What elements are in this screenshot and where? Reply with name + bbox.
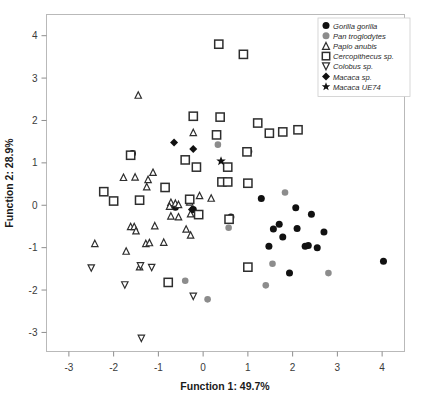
data-point [294, 126, 302, 134]
data-point [224, 178, 232, 186]
legend-item-cercopithecus-sp[interactable]: Cercopithecus sp. [322, 52, 393, 61]
x-tick-label: -1 [154, 362, 163, 373]
data-point [239, 50, 247, 58]
data-point [215, 141, 222, 148]
data-point [269, 260, 276, 267]
data-point [110, 197, 118, 205]
data-point [243, 148, 251, 156]
legend-label: Gorilla gorilla [333, 22, 377, 31]
x-tick-label: -2 [109, 362, 118, 373]
x-tick-label: 0 [200, 362, 206, 373]
data-point [182, 277, 189, 284]
y-tick-label: 0 [32, 200, 38, 211]
legend-label: Macaca UE74 [333, 83, 381, 92]
legend-label: Pan troglodytes [333, 32, 386, 41]
data-point [244, 179, 252, 187]
x-tick-label: 3 [335, 362, 341, 373]
data-point [181, 156, 189, 164]
data-point [282, 189, 289, 196]
data-point [186, 195, 194, 203]
data-point [262, 282, 269, 289]
data-point [216, 113, 224, 121]
data-point [314, 244, 321, 251]
y-tick-label: 4 [32, 30, 38, 41]
data-point [225, 215, 233, 223]
data-point [380, 258, 387, 265]
chart-canvas: -3-2-101234 -3-2-101234 Function 1: 49.7… [0, 0, 423, 404]
legend-marker-square-open [322, 52, 329, 59]
data-point [215, 40, 223, 48]
data-point [204, 296, 211, 303]
scatter-plot-figure: -3-2-101234 -3-2-101234 Function 1: 49.7… [0, 0, 423, 404]
data-point [279, 234, 286, 241]
data-point [258, 195, 265, 202]
data-point [270, 225, 277, 232]
data-point [294, 225, 301, 232]
x-axis-title: Function 1: 49.7% [180, 380, 270, 392]
data-point [320, 228, 327, 235]
legend-label: Cercopithecus sp. [333, 52, 394, 61]
x-tick-label: 4 [379, 362, 385, 373]
data-point [308, 211, 315, 218]
y-tick-label: -3 [29, 327, 38, 338]
data-point [212, 131, 220, 139]
data-point [265, 243, 272, 250]
x-tick-label: 2 [290, 362, 296, 373]
data-point [279, 128, 287, 136]
y-tick-label: -1 [29, 242, 38, 253]
data-point [276, 221, 283, 228]
legend-label: Papio anubis [333, 42, 377, 51]
data-point [161, 183, 169, 191]
y-axis-title: Function 2: 28.9% [3, 138, 15, 228]
legend-item-pan-troglodytes[interactable]: Pan troglodytes [323, 32, 386, 41]
legend-label: Colobus sp. [333, 62, 373, 71]
data-point [225, 224, 232, 231]
y-tick-label: 2 [32, 115, 38, 126]
data-point [127, 151, 135, 159]
data-point [100, 188, 108, 196]
x-tick-label: 1 [245, 362, 251, 373]
data-point [254, 119, 262, 127]
data-point [224, 163, 232, 171]
data-point [195, 210, 203, 218]
data-point [265, 129, 273, 137]
data-point [192, 163, 200, 171]
x-tick-label: -3 [64, 362, 73, 373]
data-point [164, 278, 172, 286]
data-point [305, 242, 312, 249]
legend: Gorilla gorillaPan troglodytesPapio anub… [318, 18, 410, 96]
y-tick-label: 1 [32, 157, 38, 168]
legend-label: Macaca sp. [333, 73, 372, 82]
data-point [286, 270, 293, 277]
y-tick-label: -2 [29, 285, 38, 296]
data-point [189, 112, 197, 120]
legend-marker-circle-filled [323, 22, 330, 29]
data-point [292, 204, 299, 211]
data-point [135, 196, 143, 204]
data-point [244, 263, 252, 271]
legend-marker-circle-filled [323, 32, 330, 39]
y-tick-label: 3 [32, 73, 38, 84]
data-point [325, 270, 332, 277]
